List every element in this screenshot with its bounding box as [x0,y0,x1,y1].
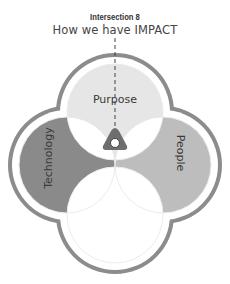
label-technology: Technology [42,127,55,190]
marker-dot-icon [111,139,120,148]
label-purpose: Purpose [93,93,137,106]
label-people: People [174,135,187,172]
venn-diagram: Purpose Technology People [0,0,230,284]
